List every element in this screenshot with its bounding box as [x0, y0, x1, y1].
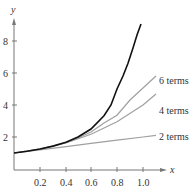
- annotation-2-terms: 2 terms: [159, 131, 189, 142]
- y-tick-label: 6: [3, 68, 8, 79]
- x-axis-arrow-icon: [160, 168, 167, 172]
- x-tick-label: 0.8: [111, 177, 124, 188]
- y-axis: y 8 6 4 2: [3, 4, 17, 170]
- x-tick-label: 0.4: [60, 177, 73, 188]
- chart: y 8 6 4 2 x 0.2 0.4 0.6 0.8 1.0 6 terms …: [0, 0, 194, 193]
- chart-svg: y 8 6 4 2 x 0.2 0.4 0.6 0.8 1.0 6 terms …: [0, 0, 194, 193]
- y-tick-label: 4: [3, 100, 8, 111]
- series-6-terms: [14, 76, 156, 153]
- y-tick-label: 8: [3, 36, 8, 47]
- x-tick-label: 1.0: [137, 177, 150, 188]
- series-function: [14, 24, 141, 153]
- annotation-4-terms: 4 terms: [159, 105, 189, 116]
- x-axis: x 0.2 0.4 0.6 0.8 1.0: [14, 164, 175, 188]
- y-axis-label: y: [10, 4, 16, 15]
- annotation-6-terms: 6 terms: [159, 75, 189, 86]
- y-axis-arrow-icon: [12, 18, 16, 25]
- x-tick-label: 0.6: [85, 177, 98, 188]
- y-tick-label: 2: [3, 132, 8, 143]
- x-axis-label: x: [169, 164, 175, 175]
- x-tick-label: 0.2: [34, 177, 47, 188]
